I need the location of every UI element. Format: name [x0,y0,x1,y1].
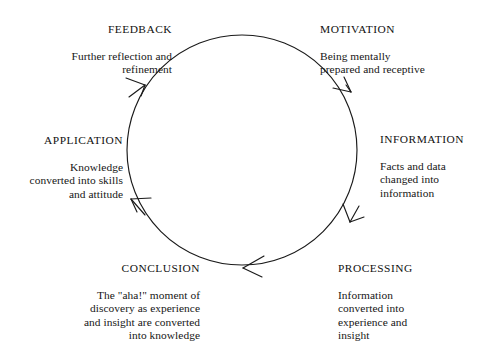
stage-title-application: APPLICATION [8,134,123,147]
stage-label-information: INFORMATION Facts and data changed into … [380,120,485,213]
stage-description-motivation: Being mentally prepared and receptive [320,50,480,77]
arrow-to-application-icon [131,198,151,215]
stage-title-feedback: FEEDBACK [22,23,172,36]
stage-description-conclusion: The "aha!" moment of discovery as experi… [22,289,200,342]
stage-description-information: Facts and data changed into information [380,160,485,200]
stage-label-conclusion: CONCLUSION The "aha!" moment of discover… [22,249,200,345]
stage-title-information: INFORMATION [380,133,485,146]
stage-description-feedback: Further reflection and refinement [22,50,172,77]
stage-label-feedback: FEEDBACK Further reflection and refineme… [22,10,172,90]
stage-description-application: Knowledge converted into skills and atti… [8,161,123,201]
stage-description-processing: Information converted into experience an… [338,289,483,342]
arrow-to-conclusion-icon [243,256,264,277]
stage-title-conclusion: CONCLUSION [22,262,200,275]
stage-label-motivation: MOTIVATION Being mentally prepared and r… [320,10,480,90]
stage-label-application: APPLICATION Knowledge converted into ski… [8,121,123,214]
arrow-to-processing-icon [343,204,364,222]
stage-title-motivation: MOTIVATION [320,23,480,36]
stage-label-processing: PROCESSING Information converted into ex… [338,249,483,345]
stage-title-processing: PROCESSING [338,262,483,275]
